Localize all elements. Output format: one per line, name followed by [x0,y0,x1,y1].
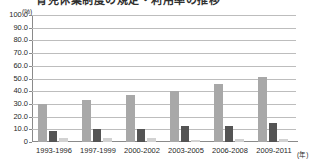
y-axis-tick-label: 70.0 [13,49,28,57]
chart-title-text: 育児休業制度の規定・利用率の推移 [36,0,220,7]
bar-series-2-1993-1996 [49,131,58,142]
y-axis-tick-label: 40.0 [13,87,28,95]
y-axis-tick-label: 90.0 [13,24,28,32]
x-axis-label: 1993-1996 [36,146,72,155]
y-axis-tick-label: 10.0 [13,126,28,134]
bar-series-1-1993-1996 [38,104,47,142]
x-axis-label: 2009-2011 [256,146,291,155]
bar-series-2-1997-1999 [93,129,102,142]
x-axis-label: 2006-2008 [212,146,248,155]
plot-area: 100.090.080.070.060.050.040.030.020.010.… [32,15,296,142]
bars-group [32,15,296,142]
bar-series-2-2003-2005 [181,126,190,142]
bar-series-2-2000-2002 [137,129,146,142]
bar-series-2-2006-2008 [225,126,234,142]
chart-title-clipped: 育児休業制度の規定・利用率の推移 [0,0,318,7]
bar-series-3-2003-2005 [191,140,200,142]
y-axis-tick [29,142,32,143]
y-axis-tick-label: 50.0 [13,75,28,83]
y-axis-tick-label: 0 [24,138,28,146]
x-axis-unit-label: (年) [297,149,308,159]
bar-series-1-2006-2008 [214,84,223,142]
x-axis-label: 2003-2005 [168,146,204,155]
y-axis-tick-label: 80.0 [13,37,28,45]
y-axis-tick-label: 100.0 [9,11,28,19]
bar-series-2-2009-2011 [269,123,278,142]
x-axis-labels-group: 1993-19961997-19992000-20022003-20052006… [32,146,296,160]
bar-series-1-2003-2005 [170,91,179,142]
x-axis-label: 1997-1999 [80,146,116,155]
bar-series-3-2009-2011 [279,139,288,142]
bar-series-1-2000-2002 [126,95,135,142]
bar-series-1-1997-1999 [82,100,91,142]
chart-container: 育児休業制度の規定・利用率の推移 (%) (年) 100.090.080.070… [0,0,318,163]
x-axis-label: 2000-2002 [124,146,160,155]
bar-series-1-2009-2011 [258,77,267,142]
bar-series-3-1997-1999 [103,138,112,142]
bar-series-3-2006-2008 [235,139,244,142]
bar-series-3-2000-2002 [147,138,156,142]
y-axis-tick-label: 30.0 [13,100,28,108]
bar-series-3-1993-1996 [59,138,68,142]
y-axis-tick-label: 20.0 [13,113,28,121]
y-axis-tick-label: 60.0 [13,62,28,70]
